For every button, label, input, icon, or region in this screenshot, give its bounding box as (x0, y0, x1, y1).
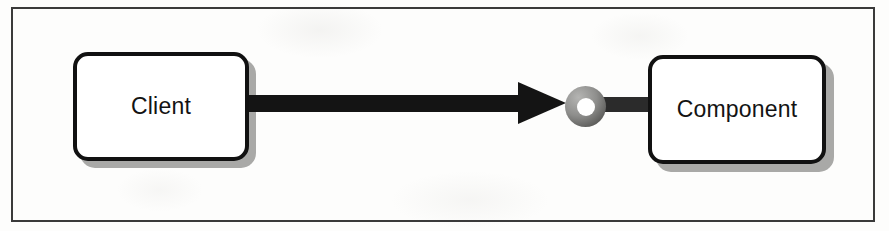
dependency-arrow-shaft (246, 95, 521, 112)
component-node-box[interactable]: Component (648, 55, 826, 164)
provided-interface-ball-hole (577, 98, 595, 116)
client-node-box[interactable]: Client (73, 52, 249, 161)
dependency-arrow-head (518, 82, 566, 124)
component-node-label: Component (677, 98, 798, 121)
diagram-canvas: Client Component (0, 0, 889, 231)
client-node-label: Client (131, 95, 191, 118)
provided-interface-ball-icon (565, 86, 606, 127)
